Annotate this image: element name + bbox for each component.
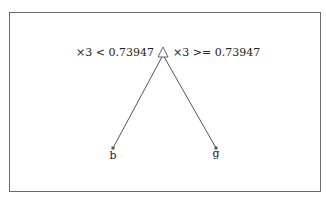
edge-right [163,55,216,148]
leaf-label-b: b [109,149,116,162]
root-node-triangle-icon [158,47,168,57]
split-label-right: ×3 >= 0.73947 [173,46,260,59]
split-label-left: ×3 < 0.73947 [76,46,154,59]
edge-left [113,55,163,148]
leaf-label-g: g [212,147,219,160]
decision-tree: ×3 < 0.73947 ×3 >= 0.73947 b g [0,0,326,200]
